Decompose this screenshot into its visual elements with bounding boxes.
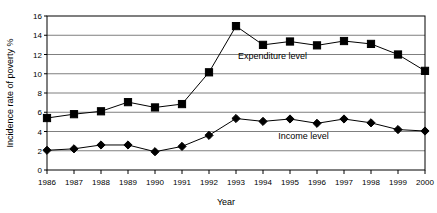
poverty-incidence-line-chart: 0246810121416 19861987198819891990199119… bbox=[0, 0, 437, 213]
data-point-1995 bbox=[286, 38, 293, 45]
y-axis-title: Incidence rate of poverty % bbox=[5, 38, 15, 147]
y-tick-label-8: 8 bbox=[38, 89, 43, 98]
y-tick-label-14: 14 bbox=[33, 31, 42, 40]
x-tick-label-1995: 1995 bbox=[281, 178, 299, 187]
data-point-1990 bbox=[151, 104, 158, 111]
x-tick-label-1989: 1989 bbox=[119, 178, 137, 187]
y-tick-label-12: 12 bbox=[33, 51, 42, 60]
x-tick-label-1992: 1992 bbox=[200, 178, 218, 187]
data-point-1997 bbox=[340, 37, 347, 44]
data-point-1998 bbox=[367, 40, 374, 47]
data-point-1996 bbox=[313, 42, 320, 49]
series-label-income-level: Income level bbox=[278, 131, 329, 141]
data-point-1999 bbox=[394, 51, 401, 58]
y-tick-label-16: 16 bbox=[33, 12, 42, 21]
data-point-1991 bbox=[178, 100, 185, 107]
data-point-2000 bbox=[421, 67, 428, 74]
x-tick-label-1998: 1998 bbox=[362, 178, 380, 187]
data-point-1994 bbox=[259, 41, 266, 48]
chart-svg: 0246810121416 19861987198819891990199119… bbox=[0, 0, 437, 213]
y-tick-label-10: 10 bbox=[33, 70, 42, 79]
data-point-1989 bbox=[124, 99, 131, 106]
x-tick-label-1987: 1987 bbox=[65, 178, 83, 187]
y-tick-label-6: 6 bbox=[38, 108, 43, 117]
y-tick-label-2: 2 bbox=[38, 147, 43, 156]
x-tick-label-1994: 1994 bbox=[254, 178, 272, 187]
series-label-expenditure-level: Expenditure level bbox=[238, 51, 307, 61]
x-tick-label-1993: 1993 bbox=[227, 178, 245, 187]
data-point-1988 bbox=[97, 108, 104, 115]
x-tick-label-1988: 1988 bbox=[92, 178, 110, 187]
x-tick-label-1997: 1997 bbox=[335, 178, 353, 187]
x-tick-label-1990: 1990 bbox=[146, 178, 164, 187]
data-point-1992 bbox=[205, 69, 212, 76]
x-tick-label-2000: 2000 bbox=[416, 178, 434, 187]
y-tick-label-0: 0 bbox=[38, 166, 43, 175]
data-point-1987 bbox=[70, 111, 77, 118]
y-tick-label-4: 4 bbox=[38, 128, 43, 137]
x-tick-label-1996: 1996 bbox=[308, 178, 326, 187]
x-tick-label-1986: 1986 bbox=[38, 178, 56, 187]
data-point-1986 bbox=[43, 114, 50, 121]
x-axis-title: Year bbox=[217, 197, 235, 207]
x-tick-label-1999: 1999 bbox=[389, 178, 407, 187]
x-tick-label-1991: 1991 bbox=[173, 178, 191, 187]
data-point-1993 bbox=[232, 23, 239, 30]
x-axis-tick-labels: 1986198719881989199019911992199319941995… bbox=[38, 178, 434, 187]
